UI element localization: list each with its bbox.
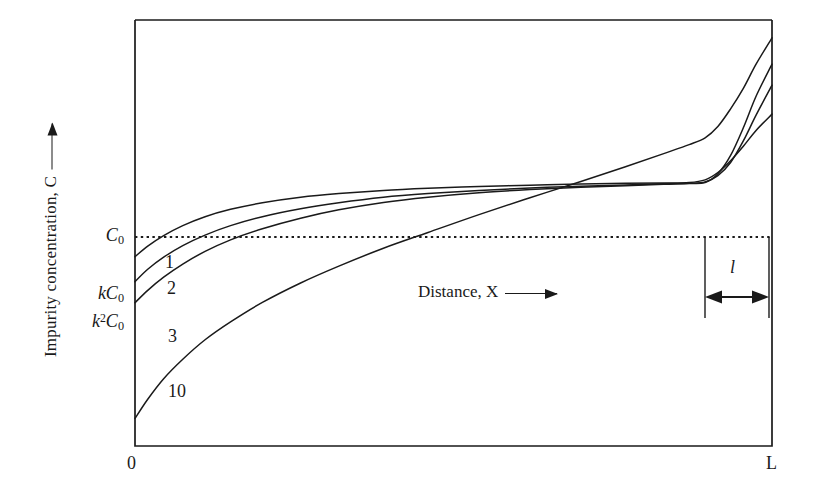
y-tick-label-kc0: kC0 [52,284,124,305]
curve-label-3: 3 [168,327,177,345]
curve-3 [135,64,772,303]
curve-label-1: 1 [165,253,174,271]
right-arrow-icon [505,289,557,298]
zone-arrow-head-right [752,291,769,304]
x-axis-title: Distance, X [418,283,557,300]
up-arrow-icon [47,124,56,170]
figure-root: Impurity concentration, C Distance, X C0… [0,0,814,494]
x-tick-label-origin: 0 [127,454,136,472]
curve-1 [135,114,772,257]
zone-length-label: l [730,258,735,276]
zone-arrow-head-left [705,291,722,304]
y-axis-title: Impurity concentration, C [42,71,59,411]
plot-frame [135,20,772,446]
curve-label-2: 2 [167,279,176,297]
y-tick-label-c0: C0 [62,226,124,247]
curve-10 [135,38,772,419]
x-tick-label-end: L [766,454,777,472]
zone-length-annotation [705,237,769,318]
x-axis-title-text: Distance, X [418,282,498,301]
curve-label-10: 10 [168,382,186,400]
data-curves [135,38,772,419]
y-tick-label-k2c0: k2C0 [42,312,124,333]
